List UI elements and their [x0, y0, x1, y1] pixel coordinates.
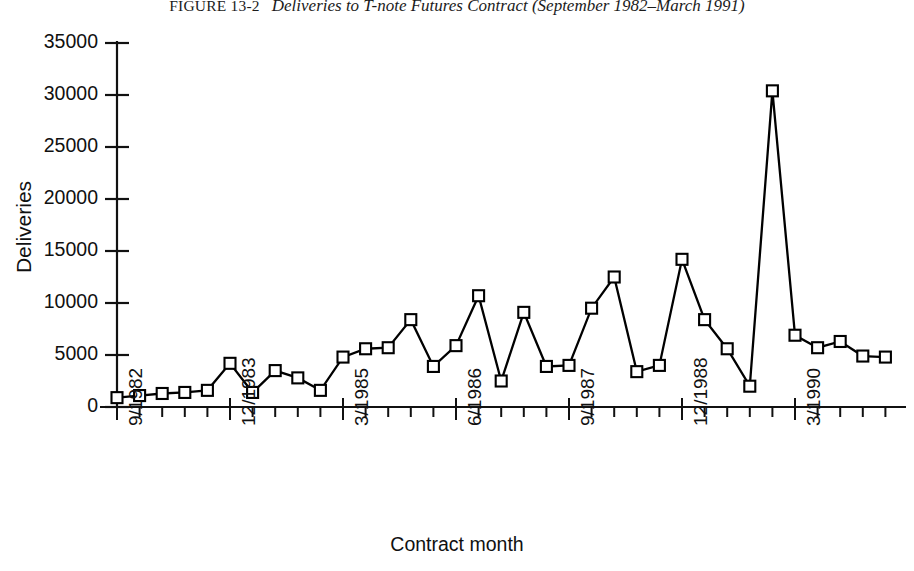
data-point-markers [112, 85, 891, 403]
data-point-marker [835, 336, 846, 347]
x-tick-label: 12/1988 [691, 357, 710, 426]
x-tick-label: 9/1982 [126, 368, 145, 426]
data-point-marker [654, 360, 665, 371]
y-tick-label: 35000 [0, 32, 98, 51]
data-point-marker [451, 340, 462, 351]
data-point-marker [609, 272, 620, 283]
y-axis-title: Deliveries [12, 157, 36, 297]
figure-container: FIGURE 13-2Deliveries to T-note Futures … [0, 0, 914, 571]
x-tick-label: 9/1987 [578, 368, 597, 426]
y-tick-label: 25000 [0, 136, 98, 155]
data-point-marker [315, 385, 326, 396]
data-point-marker [744, 381, 755, 392]
data-point-marker [405, 314, 416, 325]
y-tick-label: 5000 [0, 344, 98, 363]
chart-plot-area: 05000100001500020000250003000035000 9/19… [0, 0, 914, 571]
x-axis-ticks [117, 398, 885, 420]
data-point-marker [360, 343, 371, 354]
data-series-line [117, 91, 885, 398]
data-point-marker [812, 342, 823, 353]
data-point-marker [790, 330, 801, 341]
x-tick-label: 3/1990 [804, 368, 823, 426]
data-point-marker [767, 85, 778, 96]
data-point-marker [880, 352, 891, 363]
data-point-marker [699, 314, 710, 325]
data-point-marker [428, 361, 439, 372]
data-point-marker [518, 307, 529, 318]
data-point-marker [677, 254, 688, 265]
x-axis-title: Contract month [0, 533, 914, 556]
data-point-marker [270, 365, 281, 376]
data-point-marker [157, 388, 168, 399]
data-point-marker [473, 290, 484, 301]
x-tick-label: 12/1983 [239, 357, 258, 426]
y-tick-label: 0 [0, 396, 98, 415]
data-point-marker [496, 376, 507, 387]
data-point-marker [564, 360, 575, 371]
data-point-marker [631, 366, 642, 377]
data-point-marker [383, 342, 394, 353]
data-point-marker [202, 385, 213, 396]
data-point-marker [857, 351, 868, 362]
y-tick-label: 30000 [0, 84, 98, 103]
data-point-marker [586, 303, 597, 314]
data-point-marker [112, 392, 123, 403]
line-chart-svg [0, 0, 914, 571]
x-tick-label: 3/1985 [352, 368, 371, 426]
data-point-marker [541, 361, 552, 372]
data-point-marker [179, 387, 190, 398]
x-tick-label: 6/1986 [465, 368, 484, 426]
data-point-marker [225, 358, 236, 369]
data-point-marker [338, 352, 349, 363]
data-point-marker [722, 343, 733, 354]
data-point-marker [292, 372, 303, 383]
